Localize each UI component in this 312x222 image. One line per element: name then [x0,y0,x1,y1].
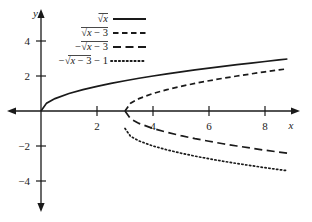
y-tick-label-neg4: −4 [18,175,30,187]
svg-text:−√x − 3 − 1: −√x − 3 − 1 [59,55,108,66]
legend-item-sqrt-x[interactable]: √x [98,13,146,24]
curve-neg-sqrt-x-minus-3 [125,111,287,153]
legend-radicand-1: x − 3 [86,27,108,38]
curves-group [41,59,287,171]
legend-label-neg-sqrt-x-minus-3-minus-1: −√x − 3 − 1 [59,55,108,66]
x-tick-label-4: 4 [150,120,156,132]
y-tick-label-neg2: −2 [18,140,30,152]
x-axis-title: x [288,119,294,131]
svg-text:√x − 3: √x − 3 [81,27,108,38]
legend-radicand-3: x − 3 [69,55,91,66]
x-tick-label-8: 8 [262,120,268,132]
y-axis-title: y [32,7,38,19]
curve-sqrt-x [41,59,287,111]
legend-label-neg-sqrt-x-minus-3: −√x − 3 [75,41,108,52]
y-tick-label-4: 4 [25,35,31,47]
legend-label-sqrt-x: √x [98,13,109,24]
svg-text:−√x − 3: −√x − 3 [75,41,108,52]
legend-item-sqrt-x-minus-3[interactable]: √x − 3 [81,27,146,38]
x-tick-label-6: 6 [206,120,212,132]
x-axis-arrow-left [7,107,16,114]
svg-text:√x: √x [98,13,109,24]
curve-neg-sqrt-x-minus-3-minus-1 [125,129,287,171]
y-tick-label-2: 2 [25,70,31,82]
legend-radicand-2: x − 3 [86,41,108,52]
legend-offset-3: − 1 [92,55,108,66]
legend-radicand-0: x [102,13,108,24]
legend-item-neg-sqrt-x-minus-3[interactable]: −√x − 3 [75,41,146,52]
curve-sqrt-x-minus-3 [125,69,287,111]
legend-item-neg-sqrt-x-minus-3-minus-1[interactable]: −√x − 3 − 1 [59,55,146,66]
figure-canvas: 2 4 6 8 4 2 −2 −4 y x √x [0,0,312,222]
y-axis-arrow-down [37,203,44,212]
legend-label-sqrt-x-minus-3: √x − 3 [81,27,108,38]
y-axis-arrow-up [37,9,44,18]
chart-svg: 2 4 6 8 4 2 −2 −4 y x √x [0,0,312,222]
x-axis-arrow-right [291,107,300,114]
legend: √x √x − 3 −√ [59,13,146,66]
x-tick-label-2: 2 [94,120,100,132]
